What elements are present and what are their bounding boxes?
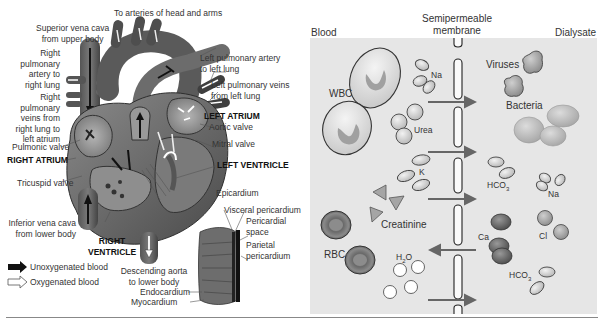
header-dialysate: Dialysate bbox=[555, 27, 596, 39]
label-na-blood: Na bbox=[431, 70, 442, 81]
label-hco3-top: HCO3 bbox=[487, 180, 509, 194]
label-wbc: WBC bbox=[329, 88, 352, 100]
label-cl: Cl bbox=[539, 231, 547, 242]
label-hco3-bottom: HCO3 bbox=[509, 270, 531, 284]
bottom-divider bbox=[6, 317, 598, 318]
label-part: O bbox=[405, 252, 412, 262]
label-viruses: Viruses bbox=[486, 59, 519, 71]
label-bacteria: Bacteria bbox=[506, 100, 543, 112]
label-rbc: RBC bbox=[324, 249, 345, 261]
label-ca: Ca bbox=[478, 232, 489, 243]
label-line: membrane bbox=[412, 25, 502, 37]
label-k: K bbox=[419, 167, 425, 178]
semipermeable-membrane bbox=[454, 38, 462, 314]
label-sub: 3 bbox=[528, 276, 531, 282]
label-sub: 3 bbox=[506, 186, 509, 192]
label-h2o: H2O bbox=[396, 252, 412, 266]
label-line: Semipermeable bbox=[412, 13, 502, 25]
label-urea: Urea bbox=[414, 125, 432, 136]
label-part: HCO bbox=[509, 270, 528, 280]
label-creatinine: Creatinine bbox=[381, 219, 427, 231]
header-membrane: Semipermeable membrane bbox=[412, 13, 502, 37]
header-blood: Blood bbox=[311, 27, 337, 39]
label-part: HCO bbox=[487, 180, 506, 190]
label-na-dialysate: Na bbox=[548, 189, 559, 200]
